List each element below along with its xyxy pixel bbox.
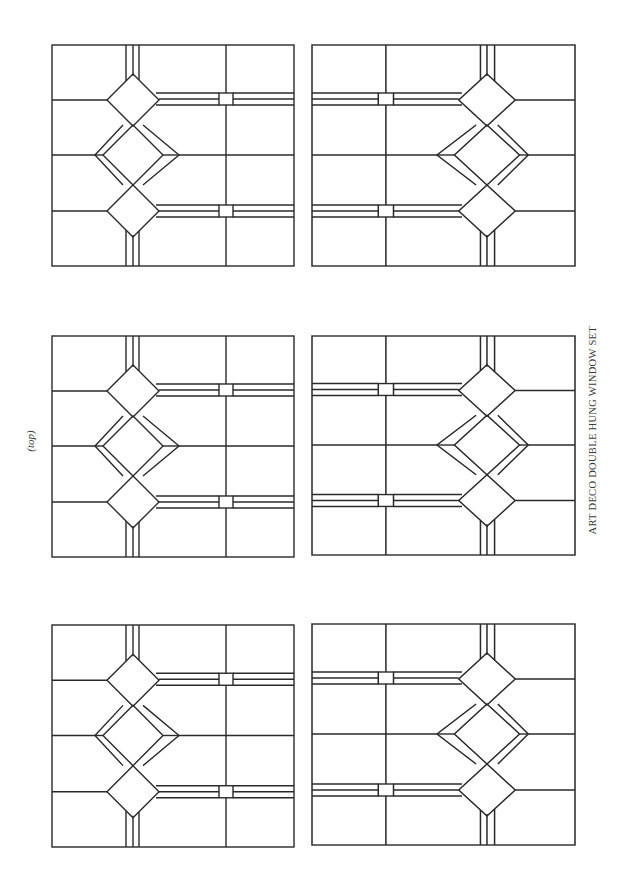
- square-jewel-bottom: [219, 496, 233, 508]
- diamond-top: [459, 653, 516, 705]
- diamond-bottom: [107, 185, 159, 237]
- panel-pattern: [312, 45, 575, 266]
- diamond-bottom: [459, 185, 516, 237]
- square-jewel-bottom: [219, 786, 233, 798]
- pattern-group: [52, 336, 294, 557]
- window-panel-r3c1: [52, 625, 294, 847]
- square-jewel-bottom: [378, 205, 393, 217]
- panel-pattern: [52, 45, 294, 266]
- panel-pattern: [52, 336, 294, 557]
- window-panel-r2c2: [312, 336, 575, 555]
- diamond-top: [459, 74, 516, 126]
- window-panel-r2c1: [52, 336, 294, 557]
- orientation-label-top: (top): [24, 417, 36, 465]
- square-jewel-top: [378, 93, 393, 105]
- pattern-group: [312, 45, 575, 266]
- page-caption: ART DECO DOUBLE HUNG WINDOW SET: [587, 345, 598, 535]
- diamond-bottom: [107, 766, 159, 818]
- square-jewel-top: [219, 673, 233, 685]
- panel-pattern: [312, 336, 575, 555]
- window-panel-r1c1: [52, 45, 294, 266]
- square-jewel-top: [378, 384, 393, 396]
- pattern-group: [52, 625, 294, 847]
- window-panel-r3c2: [312, 624, 575, 845]
- pattern-group: [52, 45, 294, 266]
- square-jewel-bottom: [219, 205, 233, 217]
- diamond-top: [107, 654, 159, 706]
- pattern-group: [312, 624, 575, 845]
- pattern-group: [312, 336, 575, 555]
- panel-pattern: [52, 625, 294, 847]
- diamond-bottom: [107, 476, 159, 528]
- diamond-top: [107, 365, 159, 417]
- square-jewel-top: [219, 384, 233, 396]
- diamond-bottom: [459, 475, 516, 527]
- square-jewel-bottom: [378, 495, 393, 507]
- diamond-bottom: [459, 764, 516, 816]
- window-panel-r1c2: [312, 45, 575, 266]
- square-jewel-bottom: [378, 784, 393, 796]
- diamond-top: [107, 74, 159, 126]
- diamond-top: [459, 365, 516, 417]
- panel-pattern: [312, 624, 575, 845]
- square-jewel-top: [378, 672, 393, 684]
- square-jewel-top: [219, 93, 233, 105]
